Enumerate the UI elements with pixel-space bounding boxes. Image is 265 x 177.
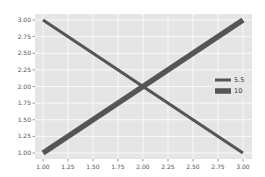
y-axis-ticks: 1.001.251.501.752.002.252.502.753.00 [18, 16, 35, 156]
legend-label: 10 [234, 87, 242, 95]
x-axis-ticks: 1.001.251.501.752.002.252.502.753.00 [36, 159, 250, 170]
x-tick-label: 1.75 [111, 163, 125, 170]
x-tick-label: 2.75 [211, 163, 225, 170]
y-tick-label: 1.00 [18, 149, 32, 156]
y-tick-label: 3.00 [18, 16, 32, 23]
y-tick-label: 1.25 [18, 132, 32, 139]
x-tick-label: 2.00 [136, 163, 150, 170]
y-tick-label: 2.50 [18, 49, 32, 56]
y-tick-label: 2.00 [18, 83, 32, 90]
x-tick-label: 2.25 [161, 163, 175, 170]
y-tick-label: 1.75 [18, 99, 32, 106]
y-tick-label: 1.50 [18, 116, 32, 123]
x-tick-label: 2.50 [186, 163, 200, 170]
legend-label: 5.5 [234, 76, 244, 84]
x-tick-label: 1.50 [86, 163, 100, 170]
x-tick-label: 1.25 [61, 163, 75, 170]
x-tick-label: 3.00 [236, 163, 250, 170]
y-tick-label: 2.25 [18, 66, 32, 73]
legend: 5.510 [212, 73, 250, 99]
y-tick-label: 2.75 [18, 33, 32, 40]
x-tick-label: 1.00 [36, 163, 50, 170]
line-chart: 1.001.251.501.752.002.252.502.753.00 1.0… [0, 0, 265, 177]
